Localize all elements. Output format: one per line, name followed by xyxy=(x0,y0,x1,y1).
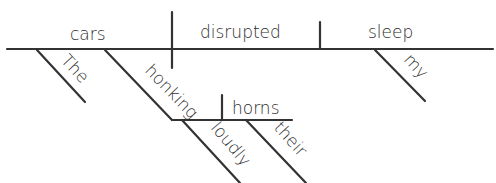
participle-object-word: horns xyxy=(232,98,280,118)
modifier-word-the: The xyxy=(57,50,93,87)
verb-word: disrupted xyxy=(200,22,281,42)
object-word: sleep xyxy=(368,22,413,42)
modifier-word-my: my xyxy=(400,49,433,82)
sentence-diagram: cars disrupted sleep The honking horns l… xyxy=(0,0,496,183)
modifier-word-loudly: loudly xyxy=(207,118,255,170)
subject-word: cars xyxy=(70,24,106,44)
participle-word: honking xyxy=(141,60,202,122)
modifier-word-their: their xyxy=(270,117,311,160)
